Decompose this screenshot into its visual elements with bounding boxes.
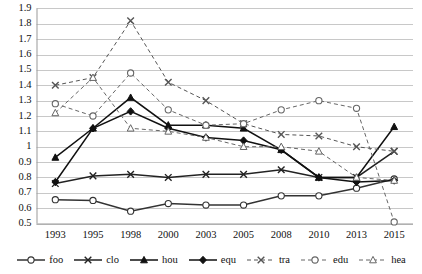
series-tra [52,17,397,154]
marker-circle [240,121,246,127]
y-axis-tick-label: 1.6 [0,49,32,60]
marker-circle [165,107,171,113]
marker-circle [240,202,246,208]
legend-label: hea [391,255,406,266]
y-axis-tick-label: 1.2 [0,111,32,122]
line-triangle-solid-icon [129,254,159,266]
x-axis-tick-label: 1993 [35,230,75,241]
legend-label: foo [49,255,63,266]
x-axis-tick-label: 2005 [224,230,264,241]
y-axis-tick-label: 1.3 [0,95,32,106]
line-chart: 0.50.60.70.80.911.11.21.31.41.51.61.71.8… [0,0,422,274]
marker-circle [312,257,318,263]
y-axis-tick-label: 0.6 [0,203,32,214]
marker-circle [90,113,96,119]
marker-triangle [391,123,398,129]
line-triangle-dashed-icon [358,254,388,266]
legend-label: edu [333,255,348,266]
line-x-solid-icon [73,254,103,266]
y-axis-tick-label: 0.9 [0,157,32,168]
series-hea [52,74,398,183]
marker-x [203,97,210,104]
legend-label: clo [106,255,119,266]
marker-circle [90,197,96,203]
marker-circle [353,105,359,111]
y-axis-tick-label: 0.8 [0,172,32,183]
x-axis-tick-label: 2015 [374,230,414,241]
line-x-dashed-icon [246,254,276,266]
marker-circle [165,200,171,206]
marker-x [353,143,360,150]
marker-circle [316,98,322,104]
marker-triangle [127,125,134,131]
x-axis-tick-label: 1998 [111,230,151,241]
x-axis-tick-label: 2013 [337,230,377,241]
legend-item-hou[interactable]: hou [129,254,178,266]
marker-circle [203,202,209,208]
x-axis-tick-label: 2010 [299,230,339,241]
y-axis-tick-label: 1.5 [0,64,32,75]
chart-legend: fooclohouequtraeduhea [0,250,422,270]
y-axis-tick-label: 1.1 [0,126,32,137]
marker-circle [391,219,397,225]
y-axis-tick-label: 0.7 [0,187,32,198]
marker-circle [278,107,284,113]
legend-item-hea[interactable]: hea [358,254,406,266]
legend-item-tra[interactable]: tra [246,254,290,266]
x-axis-tick-label: 2003 [186,230,226,241]
legend-item-edu[interactable]: edu [300,254,348,266]
legend-label: hou [162,255,178,266]
legend-label: equ [221,255,236,266]
marker-x [165,79,172,86]
line-circle-solid-icon [16,254,46,266]
x-axis-tick-label: 2008 [261,230,301,241]
y-axis-tick-label: 1.4 [0,80,32,91]
marker-circle [278,193,284,199]
marker-circle [128,70,134,76]
legend-item-equ[interactable]: equ [188,254,236,266]
marker-circle [316,193,322,199]
marker-x [278,131,285,138]
marker-diamond [127,108,134,115]
marker-circle [52,101,58,107]
marker-triangle [127,94,134,100]
x-axis-tick-label: 1995 [73,230,113,241]
marker-circle [128,208,134,214]
marker-diamond [199,256,206,263]
line-diamond-solid-icon [188,254,218,266]
y-axis-tick-label: 1.7 [0,34,32,45]
marker-circle [28,257,34,263]
x-axis-tick-label: 2000 [148,230,188,241]
y-axis-tick-label: 1.8 [0,18,32,29]
line-circle-dashed-icon [300,254,330,266]
y-axis-tick-label: 0.5 [0,218,32,229]
legend-item-foo[interactable]: foo [16,254,63,266]
marker-triangle [278,143,285,149]
y-axis-tick-label: 1.9 [0,3,32,14]
marker-circle [52,197,58,203]
marker-circle [203,122,209,128]
series-hou [52,94,398,180]
y-axis-tick-label: 1 [0,141,32,152]
legend-item-clo[interactable]: clo [73,254,119,266]
legend-label: tra [279,255,290,266]
marker-x [127,17,134,24]
